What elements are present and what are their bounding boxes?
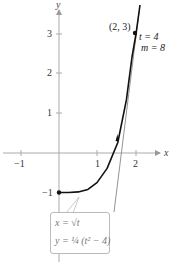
- y-tick-3: 3: [47, 28, 52, 39]
- callout-pointer: [66, 197, 79, 213]
- t-value-label: t = 4: [139, 31, 159, 42]
- slope-label: m = 8: [141, 42, 165, 53]
- y-tick-neg1: −1: [42, 187, 53, 198]
- x-axis-label: x: [163, 147, 169, 158]
- y-tick-2: 2: [47, 67, 52, 78]
- start-point: [57, 190, 61, 194]
- x-tick-1: 1: [95, 158, 100, 169]
- x-tick-neg1: −1: [14, 158, 25, 169]
- tangent-point: [133, 31, 137, 35]
- y-axis-label: y: [55, 0, 61, 10]
- equation-x: x = √t: [55, 217, 79, 228]
- x-tick-2: 2: [133, 158, 138, 169]
- equation-callout: x = √t y = ¼ (t² − 4): [50, 212, 110, 254]
- y-tick-1: 1: [47, 107, 52, 118]
- equation-y: y = ¼ (t² − 4): [55, 235, 110, 246]
- point-label: (2, 3): [109, 21, 131, 33]
